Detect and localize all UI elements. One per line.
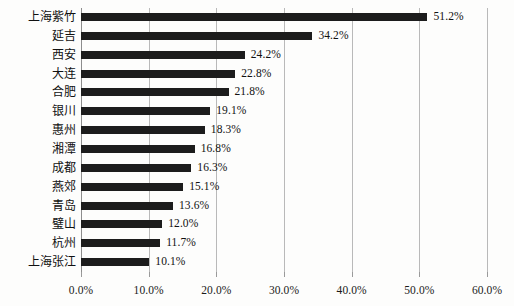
x-axis-tick-mark — [487, 272, 488, 277]
bar-row: 燕郊15.1% — [81, 178, 487, 197]
bar-row: 青岛13.6% — [81, 197, 487, 216]
category-label: 杭州 — [52, 234, 76, 252]
category-label: 青岛 — [52, 197, 76, 215]
bar-value-label: 12.0% — [168, 214, 198, 232]
bar-value-label: 51.2% — [433, 7, 463, 25]
bar — [81, 239, 160, 247]
bar-value-label: 15.1% — [189, 177, 219, 195]
bar-row: 延吉34.2% — [81, 27, 487, 46]
bar — [81, 88, 229, 96]
bar — [81, 145, 195, 153]
category-label: 惠州 — [52, 121, 76, 139]
bar-value-label: 10.1% — [155, 252, 185, 270]
category-label: 上海紫竹 — [28, 8, 76, 26]
category-label: 银川 — [52, 102, 76, 120]
bar-value-label: 13.6% — [179, 196, 209, 214]
x-axis-tick-mark — [352, 272, 353, 277]
bar-row: 上海张江10.1% — [81, 253, 487, 272]
bar-row: 上海紫竹51.2% — [81, 8, 487, 27]
x-axis-tick-mark — [216, 272, 217, 277]
x-axis-tick-mark — [81, 272, 82, 277]
category-label: 上海张江 — [28, 253, 76, 271]
x-axis-tick-mark — [149, 272, 150, 277]
bar — [81, 107, 210, 115]
category-label: 燕郊 — [52, 178, 76, 196]
bar-row: 银川19.1% — [81, 102, 487, 121]
bar-row: 璧山12.0% — [81, 215, 487, 234]
gridline-60.0% — [487, 8, 488, 272]
bar-row: 湘潭16.8% — [81, 140, 487, 159]
bar — [81, 70, 235, 78]
category-label: 大连 — [52, 65, 76, 83]
bar-value-label: 22.8% — [241, 64, 271, 82]
bar-row: 合肥21.8% — [81, 83, 487, 102]
bar-value-label: 21.8% — [235, 82, 265, 100]
bar-value-label: 16.3% — [197, 158, 227, 176]
bar-row: 大连22.8% — [81, 65, 487, 84]
bar-value-label: 34.2% — [318, 26, 348, 44]
bar-row: 西安24.2% — [81, 46, 487, 65]
bar — [81, 126, 205, 134]
bar — [81, 202, 173, 210]
bar — [81, 164, 191, 172]
bar — [81, 183, 183, 191]
bar-row: 成都16.3% — [81, 159, 487, 178]
bar-value-label: 16.8% — [201, 139, 231, 157]
bar-value-label: 19.1% — [216, 101, 246, 119]
bar-value-label: 24.2% — [251, 45, 281, 63]
x-axis-tick-label: 60.0% — [447, 284, 514, 296]
category-label: 成都 — [52, 159, 76, 177]
x-axis-tick-mark — [419, 272, 420, 277]
bar-row: 惠州18.3% — [81, 121, 487, 140]
bar-value-label: 18.3% — [211, 120, 241, 138]
category-label: 合肥 — [52, 83, 76, 101]
x-axis-tick-mark — [284, 272, 285, 277]
bar — [81, 258, 149, 266]
bar — [81, 220, 162, 228]
bar — [81, 13, 427, 21]
bar — [81, 51, 245, 59]
bar-row: 杭州11.7% — [81, 234, 487, 253]
category-label: 湘潭 — [52, 140, 76, 158]
category-label: 璧山 — [52, 215, 76, 233]
category-label: 延吉 — [52, 27, 76, 45]
bar-chart: 0.0%10.0%20.0%30.0%40.0%50.0%60.0%上海紫竹51… — [0, 0, 514, 306]
bar-value-label: 11.7% — [166, 233, 196, 251]
bar — [81, 32, 312, 40]
plot-area: 0.0%10.0%20.0%30.0%40.0%50.0%60.0%上海紫竹51… — [81, 8, 487, 272]
category-label: 西安 — [52, 46, 76, 64]
